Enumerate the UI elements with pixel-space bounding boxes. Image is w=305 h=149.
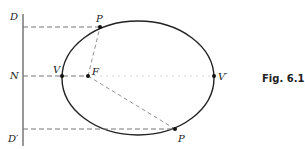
label-D-prime: D′: [7, 133, 19, 144]
point-P-top: [98, 25, 102, 29]
label-P-bottom: P: [177, 133, 185, 144]
label-V: V: [53, 64, 62, 75]
focal-radius-bottom: [88, 76, 175, 129]
label-F: F: [91, 66, 100, 77]
point-V: [60, 74, 64, 78]
ellipse-focus-directrix-diagram: D N D′ P V F V′ P Fig. 6.1: [0, 0, 305, 149]
label-N: N: [9, 70, 20, 81]
label-V-prime: V′: [218, 71, 228, 82]
point-F: [86, 74, 90, 78]
label-P-top: P: [95, 13, 103, 24]
point-V-prime: [212, 74, 216, 78]
point-P-bottom: [173, 127, 177, 131]
figure-caption: Fig. 6.1: [262, 73, 304, 84]
label-D: D: [9, 11, 18, 22]
ellipse-curve: [62, 21, 214, 135]
